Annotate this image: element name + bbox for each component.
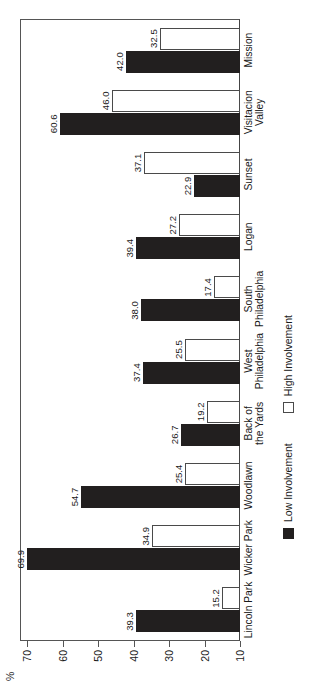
bar-value-label: 32.5 bbox=[149, 29, 159, 48]
value-axis-tick bbox=[134, 641, 135, 647]
bar-high-involvement: 27.2 bbox=[179, 214, 240, 236]
category-label: Lincoln Park bbox=[243, 579, 254, 641]
legend-entry: High Involvement bbox=[282, 315, 294, 413]
bar-low-involvement: 37.4 bbox=[143, 362, 240, 384]
bar-group: 39.315.2 bbox=[20, 579, 240, 641]
value-axis-tick bbox=[169, 641, 170, 647]
bar-high-involvement: 25.5 bbox=[185, 339, 240, 361]
bar-value-label: 17.4 bbox=[203, 278, 213, 297]
category-axis-labels: Lincoln ParkWicker ParkWoodlawnBack of t… bbox=[243, 19, 277, 641]
bar-group: 22.937.1 bbox=[20, 143, 240, 205]
bar-value-label: 38.0 bbox=[130, 301, 140, 320]
bar-low-involvement: 38.0 bbox=[141, 299, 240, 321]
bar-value-label: 60.6 bbox=[49, 114, 59, 133]
category-label: Sunset bbox=[243, 143, 254, 205]
value-axis-tick-label: 50 bbox=[93, 650, 103, 662]
legend-label: High Involvement bbox=[282, 315, 294, 396]
bar-group: 69.934.9 bbox=[20, 517, 240, 579]
bar-group: 42.032.5 bbox=[20, 19, 240, 81]
value-axis: 70605040302010 bbox=[20, 641, 240, 689]
bar-value-label: 19.2 bbox=[196, 402, 206, 421]
bar-high-involvement: 19.2 bbox=[207, 401, 240, 423]
bar-value-label: 15.2 bbox=[211, 589, 221, 608]
category-label: Visitacion Valley bbox=[243, 81, 266, 143]
bar-high-involvement: 17.4 bbox=[214, 276, 240, 298]
bar-value-label: 54.7 bbox=[70, 488, 80, 507]
bar-low-involvement: 69.9 bbox=[27, 548, 240, 570]
bar-value-label: 27.2 bbox=[168, 216, 178, 235]
bar-low-involvement: 39.4 bbox=[136, 237, 240, 259]
bar-value-label: 39.4 bbox=[125, 239, 135, 258]
category-label: Wicker Park bbox=[243, 517, 254, 579]
bar-value-label: 34.9 bbox=[141, 527, 151, 546]
bars-layer: 39.315.269.934.954.725.426.719.237.425.5… bbox=[20, 19, 240, 641]
bar-value-label: 37.4 bbox=[132, 363, 142, 382]
bar-group: 26.719.2 bbox=[20, 392, 240, 454]
value-axis-tick bbox=[205, 641, 206, 647]
bar-group: 38.017.4 bbox=[20, 268, 240, 330]
category-label: South Philadelphia bbox=[243, 268, 266, 330]
bar-group: 39.427.2 bbox=[20, 206, 240, 268]
bar-value-label: 39.3 bbox=[125, 612, 135, 631]
bar-high-involvement: 37.1 bbox=[144, 152, 240, 174]
category-label: Logan bbox=[243, 206, 254, 268]
chart-plot-area: % 70605040302010 39.315.269.934.954.725.… bbox=[0, 0, 309, 689]
value-axis-tick bbox=[98, 641, 99, 647]
bar-low-involvement: 22.9 bbox=[194, 175, 240, 197]
bar-value-label: 37.1 bbox=[133, 154, 143, 173]
legend-label: Low Involvement bbox=[282, 443, 294, 522]
bar-high-involvement: 32.5 bbox=[160, 28, 240, 50]
value-axis-tick-label: 10 bbox=[235, 650, 245, 662]
category-label: Mission bbox=[243, 19, 254, 81]
value-axis-tick-label: 40 bbox=[129, 650, 139, 662]
bar-group: 37.425.5 bbox=[20, 330, 240, 392]
bar-high-involvement: 15.2 bbox=[222, 587, 240, 609]
bar-low-involvement: 54.7 bbox=[81, 486, 240, 508]
legend-swatch-low-icon bbox=[283, 528, 294, 539]
category-label: West Philadelphia bbox=[243, 330, 266, 392]
bar-group: 60.646.0 bbox=[20, 81, 240, 143]
bar-low-involvement: 60.6 bbox=[60, 113, 240, 135]
value-axis-tick-label: 30 bbox=[164, 650, 174, 662]
value-axis-tick-label: 60 bbox=[58, 650, 68, 662]
bar-group: 54.725.4 bbox=[20, 454, 240, 516]
value-axis-tick bbox=[240, 641, 241, 647]
chart-legend: Low InvolvementHigh Involvement bbox=[282, 315, 294, 539]
bar-high-involvement: 46.0 bbox=[112, 90, 240, 112]
bar-value-label: 26.7 bbox=[170, 425, 180, 444]
bar-low-involvement: 39.3 bbox=[136, 610, 240, 632]
value-axis-tick-label: 20 bbox=[200, 650, 210, 662]
category-label: Back of the Yards bbox=[243, 392, 266, 454]
value-axis-tick bbox=[63, 641, 64, 647]
bar-low-involvement: 26.7 bbox=[181, 424, 240, 446]
value-axis-tick bbox=[27, 641, 28, 647]
bar-value-label: 46.0 bbox=[101, 91, 111, 110]
value-axis-tick-label: 70 bbox=[22, 650, 32, 662]
legend-swatch-high-icon bbox=[283, 402, 294, 413]
bar-value-label: 69.9 bbox=[16, 550, 26, 569]
bar-value-label: 25.4 bbox=[174, 465, 184, 484]
bar-low-involvement: 42.0 bbox=[126, 51, 240, 73]
bar-value-label: 42.0 bbox=[115, 52, 125, 71]
category-label: Woodlawn bbox=[243, 454, 254, 516]
bar-value-label: 22.9 bbox=[183, 177, 193, 196]
bar-value-label: 25.5 bbox=[174, 340, 184, 359]
value-axis-title: % bbox=[4, 672, 16, 681]
bar-high-involvement: 34.9 bbox=[152, 525, 240, 547]
chart-figure: % 70605040302010 39.315.269.934.954.725.… bbox=[0, 0, 309, 689]
bar-high-involvement: 25.4 bbox=[185, 463, 240, 485]
legend-entry: Low Involvement bbox=[282, 443, 294, 539]
